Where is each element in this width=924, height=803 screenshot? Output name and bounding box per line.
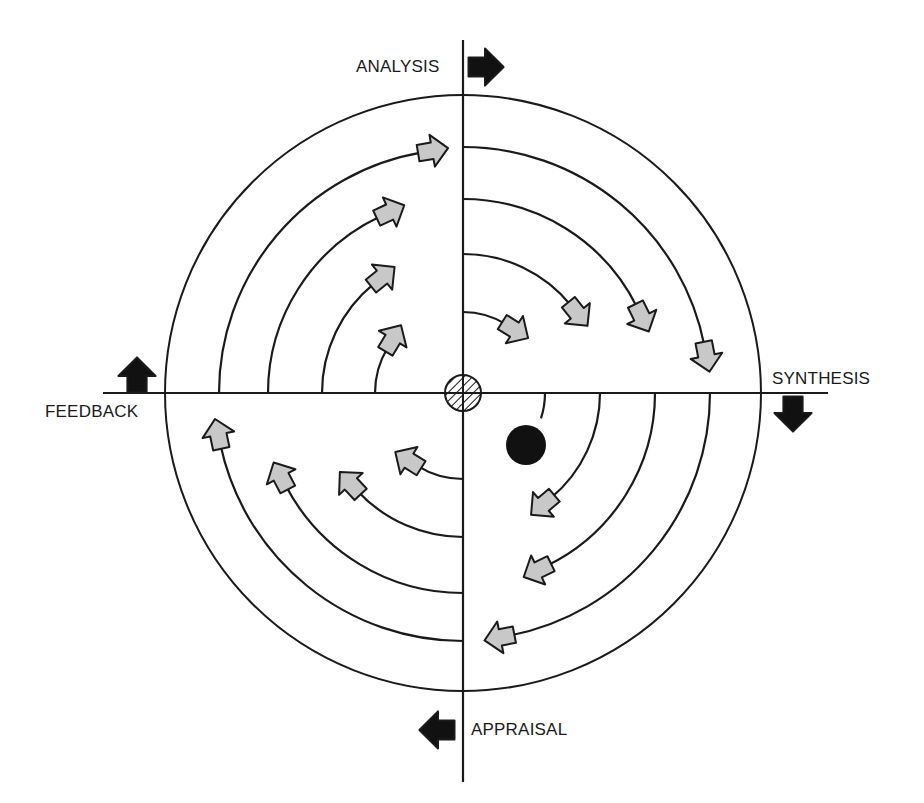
arc-path [463, 312, 506, 324]
arc-path [463, 199, 637, 308]
spiral-cycle-diagram [0, 0, 924, 803]
label-appraisal: APPRAISAL [471, 720, 567, 740]
process-arrow-icon [517, 549, 558, 591]
arc-path [322, 283, 374, 393]
process-arrow-icon [481, 619, 517, 656]
analysis-quadrant [219, 132, 451, 393]
process-arrow-icon [259, 455, 302, 497]
arc-path [551, 393, 600, 498]
arc-path [286, 486, 463, 593]
process-arrow-icon [688, 339, 725, 375]
process-arrow-icon [556, 292, 600, 336]
feedback-quadrant [199, 416, 463, 641]
process-arrow-icon [521, 483, 565, 527]
process-arrow-icon [199, 416, 237, 452]
arc-path [375, 348, 388, 393]
process-arrow-icon [372, 317, 415, 360]
synthesis-direction-arrow-icon [774, 397, 811, 432]
analysis-direction-arrow-icon [469, 48, 504, 85]
start-dot [506, 425, 546, 465]
synthesis-quadrant [463, 147, 725, 375]
process-arrow-icon [370, 191, 411, 233]
center-hub [445, 375, 481, 411]
process-arrow-icon [361, 254, 405, 298]
arc-path [417, 466, 463, 479]
arc-path [463, 254, 571, 306]
arc-path [547, 393, 655, 566]
process-arrow-icon [415, 132, 450, 169]
arc-path [541, 393, 545, 418]
process-arrow-icon [621, 297, 663, 338]
feedback-direction-arrow-icon [118, 357, 155, 392]
appraisal-direction-arrow-icon [419, 711, 454, 748]
label-analysis: ANALYSIS [356, 57, 440, 77]
arc-path [358, 491, 463, 537]
process-arrow-icon [494, 308, 537, 351]
label-synthesis: SYNTHESIS [772, 369, 870, 389]
label-feedback: FEEDBACK [45, 402, 138, 422]
process-arrow-icon [387, 438, 430, 481]
